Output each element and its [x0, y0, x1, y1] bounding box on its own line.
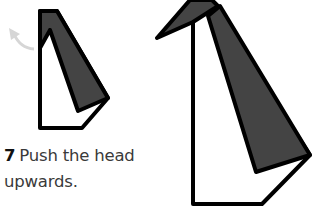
step-text-line2: upwards. [4, 172, 78, 191]
step-caption: 7Push the head upwards. [4, 143, 164, 195]
step-text-line1: Push the head [19, 146, 134, 165]
figure-before [9, 11, 108, 128]
push-arrow-icon [14, 34, 34, 49]
step-number: 7 [4, 146, 15, 165]
figure-after [157, 0, 310, 204]
